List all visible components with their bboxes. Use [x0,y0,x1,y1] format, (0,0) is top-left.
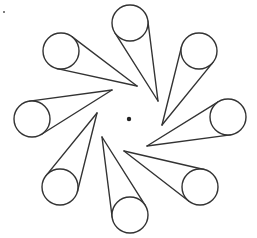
cone-circle [210,99,246,135]
cone-edge-line [147,135,230,146]
cone-circle [42,169,78,205]
cone-edge-line [42,90,112,134]
cone-circle [181,33,217,69]
cone-top-right [162,33,217,125]
cone-edge-line [147,102,219,146]
cone-edge-line [115,33,158,101]
cone-circle [14,101,50,137]
cone-bottom-left [42,113,97,205]
cone-bottom-right [124,151,218,205]
cone-circle [43,33,79,69]
cone-edge-line [102,137,112,217]
cone-circle [112,5,148,41]
cone-top-left [43,33,137,86]
cone-edge-line [30,90,112,101]
cone-circle [112,197,148,233]
diagram-svg [0,0,257,238]
center-dot [127,117,131,121]
cone-edge-line [148,21,158,101]
cone-circle [182,169,218,205]
cone-edge-line [102,137,145,205]
pinwheel-diagram [0,0,257,238]
cone-right [147,99,246,146]
corner-mark [3,11,5,13]
cone-top [112,5,158,101]
